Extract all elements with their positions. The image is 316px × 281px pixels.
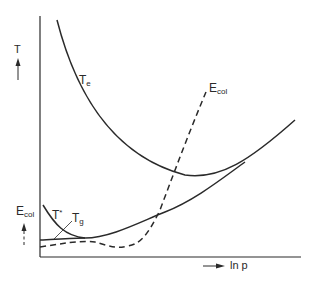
tg-curve (40, 238, 85, 240)
diagram-canvas (0, 0, 316, 281)
te-curve (57, 20, 295, 176)
curve-label-ecol: Ecol (209, 82, 227, 96)
ecol-axis-arrow-icon (22, 223, 27, 245)
curve-label-te: Te (79, 74, 91, 88)
y-axis-label-t: T (14, 44, 21, 55)
ln-p-arrow-icon (203, 264, 225, 269)
curve-label-tstar: T* (52, 209, 62, 221)
y-axis-label-ecol: Ecol (16, 205, 34, 219)
x-axis-label-ln-p: ln p (230, 260, 248, 271)
t-axis-arrow-icon (16, 58, 21, 80)
ecol-curve (40, 92, 206, 247)
curve-label-tg: Tg (72, 212, 84, 226)
